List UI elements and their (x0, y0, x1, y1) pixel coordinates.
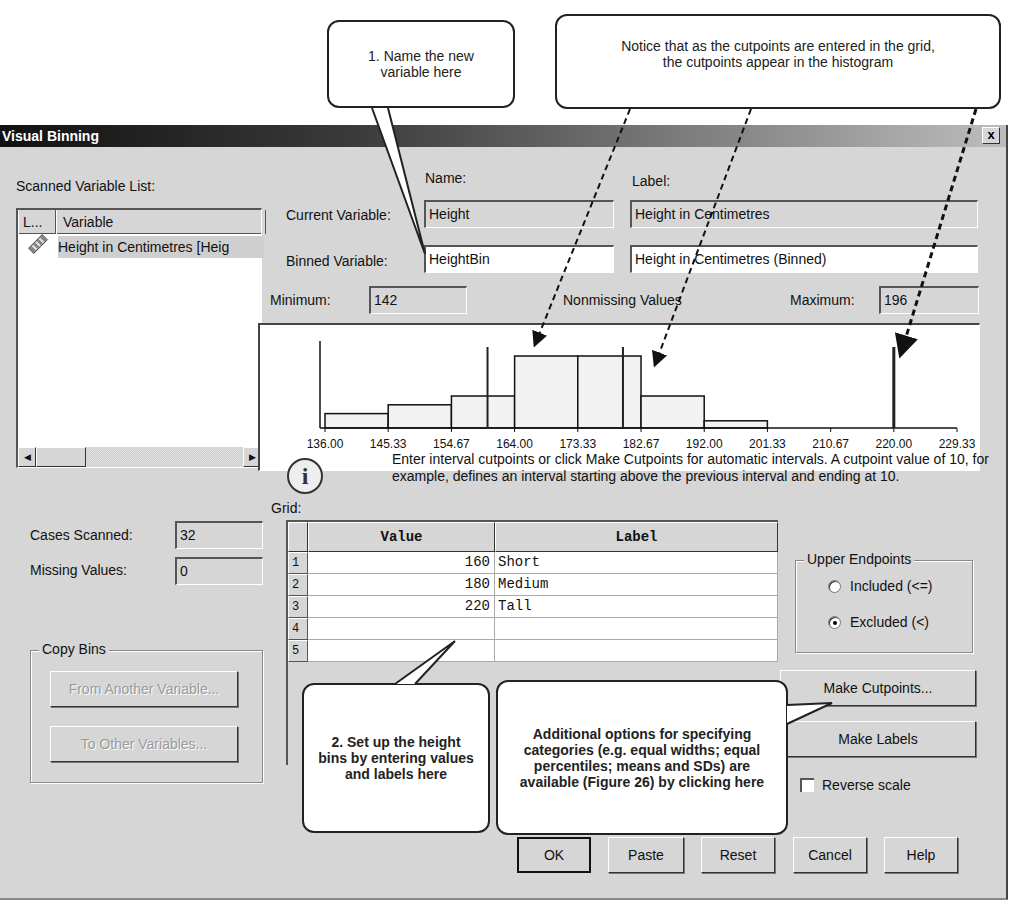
histogram-tick-label: 136.00 (307, 437, 344, 451)
minimum-label: Minimum: (270, 292, 331, 308)
upper-endpoints-group: Upper Endpoints Included (<=) Excluded (… (795, 560, 973, 653)
excluded-radio[interactable] (828, 616, 841, 629)
binned-variable-name-input[interactable]: HeightBin (424, 245, 614, 273)
close-button[interactable]: x (982, 127, 1000, 144)
variable-name: Height in Centimetres [Heig (58, 239, 229, 255)
callout-cutpoints-notice-text: Notice that as the cutpoints are entered… (617, 38, 939, 70)
name-header: Name: (425, 170, 466, 186)
reverse-scale-checkbox[interactable] (800, 778, 814, 792)
upper-endpoints-title: Upper Endpoints (804, 551, 914, 567)
cancel-button[interactable]: Cancel (793, 837, 867, 873)
grid-row-number: 2 (288, 574, 308, 596)
scale-ruler-icon (28, 234, 48, 254)
histogram-tick-label: 173.33 (559, 437, 596, 451)
callout-name-variable-text: 1. Name the new variable here (357, 48, 485, 80)
included-radio-option[interactable]: Included (<=) (828, 577, 968, 597)
horizontal-scrollbar[interactable]: ◀ ▶ (18, 447, 261, 467)
binned-variable-label: Binned Variable: (286, 253, 388, 269)
callout-setup-bins-text: 2. Set up the height bins by entering va… (318, 734, 474, 782)
histogram-bar (451, 396, 514, 428)
column-header-variable[interactable]: Variable (56, 210, 266, 234)
current-variable-label-field: Height in Centimetres (630, 200, 978, 228)
paste-button[interactable]: Paste (608, 837, 684, 873)
missing-values-label: Missing Values: (30, 562, 127, 578)
grid-corner (288, 522, 308, 552)
grid-row-number: 3 (288, 596, 308, 618)
column-header-level[interactable]: L... (18, 210, 56, 234)
histogram-tick-label: 154.67 (433, 437, 470, 451)
grid-label-cell[interactable]: Medium (495, 574, 778, 596)
grid-value-cell[interactable]: 180 (308, 574, 495, 596)
grid-value-cell[interactable] (308, 618, 495, 640)
scanned-variable-list[interactable]: L... Variable Height in Centimetres [Hei… (16, 208, 262, 468)
grid-header-value[interactable]: Value (308, 522, 495, 552)
current-variable-name-field: Height (424, 200, 614, 228)
grid-label-cell[interactable]: Tall (495, 596, 778, 618)
histogram-tick-label: 145.33 (370, 437, 407, 451)
included-radio[interactable] (828, 580, 841, 593)
callout-setup-bins: 2. Set up the height bins by entering va… (302, 683, 490, 833)
included-label: Included (<=) (850, 578, 933, 594)
minimum-field: 142 (369, 286, 467, 314)
excluded-radio-option[interactable]: Excluded (<) (828, 613, 968, 633)
histogram-panel: 136.00145.33154.67164.00173.33182.67192.… (258, 323, 980, 471)
reset-button[interactable]: Reset (701, 837, 775, 873)
copy-bins-title: Copy Bins (39, 641, 109, 657)
binned-variable-label-input[interactable]: Height in Centimetres (Binned) (630, 245, 978, 273)
close-icon: x (987, 127, 994, 142)
grid-value-cell[interactable]: 160 (308, 552, 495, 574)
histogram-tick-label: 229.33 (939, 437, 976, 451)
histogram-bar (578, 356, 641, 428)
grid-row-number: 5 (288, 640, 308, 662)
histogram-bar (704, 421, 767, 428)
callout-additional-options: Additional options for specifying catego… (496, 680, 788, 835)
maximum-field: 196 (879, 286, 979, 314)
from-another-variable-button[interactable]: From Another Variable... (50, 671, 238, 707)
maximum-label: Maximum: (790, 292, 855, 308)
grid-header-label[interactable]: Label (495, 522, 778, 552)
label-header: Label: (632, 173, 670, 189)
scroll-thumb[interactable] (36, 447, 86, 467)
help-button[interactable]: Help (884, 837, 958, 873)
title-bar: Visual Binning x (0, 125, 1006, 147)
radio-selected-dot (833, 621, 837, 625)
make-labels-button[interactable]: Make Labels (780, 721, 976, 757)
grid-label-cell[interactable]: Short (495, 552, 778, 574)
excluded-label: Excluded (<) (850, 614, 929, 630)
histogram-chart: 136.00145.33154.67164.00173.33182.67192.… (260, 325, 980, 471)
variable-list-item[interactable]: Height in Centimetres [Heig (58, 236, 264, 258)
callout-cutpoints-notice: Notice that as the cutpoints are entered… (555, 14, 1001, 109)
histogram-tick-label: 210.67 (812, 437, 849, 451)
callout-additional-options-text: Additional options for specifying catego… (518, 726, 766, 790)
reverse-scale-label: Reverse scale (822, 777, 911, 793)
variable-list-header: L... Variable (18, 210, 261, 234)
current-variable-label: Current Variable: (286, 207, 391, 223)
grid-label-cell[interactable] (495, 640, 778, 662)
scroll-left-button[interactable]: ◀ (18, 447, 36, 467)
grid-label-cell[interactable] (495, 618, 778, 640)
histogram-bar (388, 405, 451, 428)
missing-values-field: 0 (175, 557, 263, 585)
ok-button[interactable]: OK (517, 837, 591, 873)
histogram-tick-label: 182.67 (623, 437, 660, 451)
scanned-variable-list-label: Scanned Variable List: (16, 178, 155, 194)
grid-row-number: 4 (288, 618, 308, 640)
cases-scanned-label: Cases Scanned: (30, 527, 133, 543)
histogram-tick-label: 220.00 (875, 437, 912, 451)
grid-info-text: Enter interval cutpoints or click Make C… (392, 451, 990, 485)
grid-row-number: 1 (288, 552, 308, 574)
grid-label: Grid: (271, 500, 301, 516)
cases-scanned-field: 32 (175, 521, 263, 549)
grid-value-cell[interactable] (308, 640, 495, 662)
callout-name-variable: 1. Name the new variable here (327, 20, 515, 108)
histogram-tick-label: 192.00 (686, 437, 723, 451)
make-cutpoints-button[interactable]: Make Cutpoints... (780, 670, 976, 706)
info-icon: i (287, 458, 323, 494)
histogram-tick-label: 164.00 (496, 437, 533, 451)
dialog-title: Visual Binning (2, 128, 99, 144)
nonmissing-values-label: Nonmissing Values (563, 292, 682, 308)
histogram-bar (325, 414, 388, 428)
grid-value-cell[interactable]: 220 (308, 596, 495, 618)
histogram-bar (641, 396, 704, 428)
to-other-variables-button[interactable]: To Other Variables... (50, 726, 238, 762)
